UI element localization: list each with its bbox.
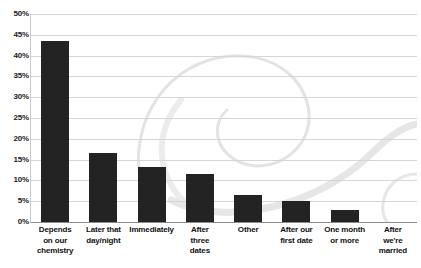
y-tick-label-5: 5% [1,197,29,205]
bar-slot [224,14,272,222]
x-axis-label: After ourfirst date [272,225,320,246]
x-axis-label-line: dates [176,246,224,257]
y-tick-label-0: 0% [1,218,29,226]
x-axis-label-line: married [369,246,417,257]
x-axis-label-line: Depends [31,225,79,236]
bar [186,174,214,222]
y-tick-label-30: 30% [1,93,29,101]
x-axis-label-line: After our [272,225,320,236]
x-axis-label: Afterwe'remarried [369,225,417,257]
x-axis-label: Immediately [128,225,176,236]
x-axis-label-line: After [369,225,417,236]
bar [41,41,69,222]
x-axis-labels: Dependson ourchemistryLater thatday/nigh… [31,225,417,268]
x-axis-label-line: three [176,236,224,247]
y-tick-label-50: 50% [1,10,29,18]
bar [89,153,117,222]
x-axis-label: Other [224,225,272,236]
bar [331,210,359,222]
x-axis-label: Later thatday/night [79,225,127,246]
bar-slot [272,14,320,222]
y-tick-label-10: 10% [1,176,29,184]
x-axis-label-line: chemistry [31,246,79,257]
x-axis-label: Afterthreedates [176,225,224,257]
y-tick-label-45: 45% [1,31,29,39]
bar-slot [369,14,417,222]
bar-slot [31,14,79,222]
x-axis-label-line: or more [321,236,369,247]
y-tick-label-35: 35% [1,72,29,80]
x-axis-label-line: After [176,225,224,236]
x-axis-label: One monthor more [321,225,369,246]
bar-slot [176,14,224,222]
y-axis: 50%45%40%35%30%25%20%15%10%5%0% [0,14,29,222]
x-axis-label-line: first date [272,236,320,247]
x-axis-label: Dependson ourchemistry [31,225,79,257]
y-tick-label-20: 20% [1,135,29,143]
plot-area [31,14,417,222]
bar-chart: 50%45%40%35%30%25%20%15%10%5%0% Dependso… [0,0,421,268]
gridline-0 [31,222,417,223]
x-axis-label-line: we're [369,236,417,247]
x-axis-label-line: Other [224,225,272,236]
y-tick-label-15: 15% [1,156,29,164]
y-tick-label-25: 25% [1,114,29,122]
bar [282,201,310,222]
x-axis-label-line: One month [321,225,369,236]
bar [138,167,166,222]
x-axis-label-line: day/night [79,236,127,247]
x-axis-label-line: Later that [79,225,127,236]
y-tick-label-40: 40% [1,52,29,60]
bar-slot [321,14,369,222]
bar-series [31,14,417,222]
x-axis-label-line: Immediately [128,225,176,236]
bar-slot [128,14,176,222]
bar [234,195,262,222]
bar-slot [79,14,127,222]
x-axis-label-line: on our [31,236,79,247]
